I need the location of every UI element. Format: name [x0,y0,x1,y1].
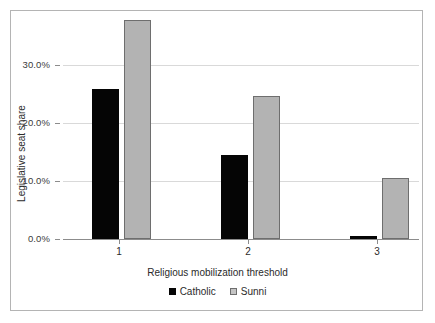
legend-label: Sunni [241,286,267,297]
x-tick-mark-3 [377,240,378,244]
legend-swatch-catholic-icon [169,288,176,295]
y-tick-mark-1 [55,181,60,182]
legend-swatch-sunni-icon [230,288,237,295]
bar-sunni-2 [253,96,280,239]
y-axis-title: Legislative seat share [16,94,27,214]
y-tick-label-3: 30.0% [23,59,50,70]
y-tick-mark-0 [55,239,60,240]
y-tick-mark-3 [55,65,60,66]
x-tick-mark-1 [119,240,120,244]
y-tick-label-1: 10.0% [23,175,50,186]
legend-item-sunni[interactable]: Sunni [230,286,267,297]
bar-catholic-3 [350,236,377,239]
x-axis-title: Religious mobilization threshold [0,267,435,278]
legend-label: Catholic [180,286,216,297]
x-tick-label-1: 1 [99,246,139,257]
bar-sunni-3 [382,178,409,239]
x-tick-label-3: 3 [357,246,397,257]
legend-item-catholic[interactable]: Catholic [169,286,216,297]
bar-catholic-1 [92,89,119,239]
bar-catholic-2 [221,155,248,239]
legend: CatholicSunni [0,286,435,297]
figure: 0.0%10.0%20.0%30.0% Legislative seat sha… [0,0,435,323]
y-tick-label-0: 0.0% [28,233,50,244]
gridline-300pct [63,65,419,66]
bar-sunni-1 [124,20,151,239]
y-tick-mark-2 [55,123,60,124]
x-tick-mark-2 [248,240,249,244]
x-axis-line [63,239,419,240]
x-tick-label-2: 2 [228,246,268,257]
y-tick-label-2: 20.0% [23,117,50,128]
